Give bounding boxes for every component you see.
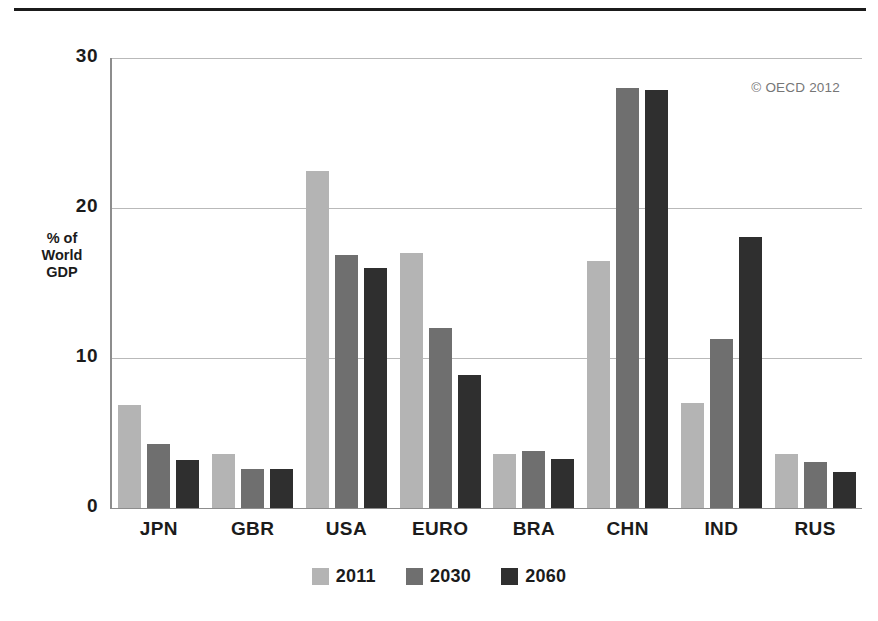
x-tick-label-rus: RUS xyxy=(768,518,862,540)
y-tick-label-0: 0 xyxy=(32,495,98,517)
legend-label-2011: 2011 xyxy=(336,566,376,587)
x-tick-label-gbr: GBR xyxy=(206,518,300,540)
bar-group-euro xyxy=(393,58,487,508)
bar-group-usa xyxy=(300,58,394,508)
bar-rus-2030[interactable] xyxy=(804,462,827,509)
bar-jpn-2011[interactable] xyxy=(118,405,141,509)
bar-group-rus xyxy=(768,58,862,508)
bar-gbr-2030[interactable] xyxy=(241,469,264,508)
bar-chn-2060[interactable] xyxy=(645,90,668,509)
bar-gbr-2060[interactable] xyxy=(270,469,293,508)
x-tick-label-euro: EURO xyxy=(393,518,487,540)
bar-series-layer xyxy=(112,58,862,508)
legend-label-2030: 2030 xyxy=(430,566,471,587)
bar-gbr-2011[interactable] xyxy=(212,454,235,508)
bar-usa-2060[interactable] xyxy=(364,268,387,508)
bar-euro-2030[interactable] xyxy=(429,328,452,508)
chart-figure: © OECD 2012 % of World GDP 0102030 JPNGB… xyxy=(0,0,878,621)
legend-item-2030[interactable]: 2030 xyxy=(406,566,471,587)
x-tick-label-usa: USA xyxy=(300,518,394,540)
x-tick-label-ind: IND xyxy=(675,518,769,540)
bar-euro-2011[interactable] xyxy=(400,253,423,508)
bar-ind-2030[interactable] xyxy=(710,339,733,509)
legend-swatch-2060 xyxy=(501,568,518,585)
y-tick-label-20: 20 xyxy=(32,195,98,217)
y-tick-label-30: 30 xyxy=(32,45,98,67)
top-divider-rule xyxy=(14,8,866,11)
legend-item-2011[interactable]: 2011 xyxy=(312,566,376,587)
legend-item-2060[interactable]: 2060 xyxy=(501,566,566,587)
x-axis-tick-labels: JPNGBRUSAEUROBRACHNINDRUS xyxy=(112,518,862,540)
legend-label-2060: 2060 xyxy=(525,566,566,587)
bar-rus-2060[interactable] xyxy=(833,472,856,508)
bar-group-chn xyxy=(581,58,675,508)
chart-legend: 201120302060 xyxy=(0,566,878,587)
x-tick-label-bra: BRA xyxy=(487,518,581,540)
bar-group-jpn xyxy=(112,58,206,508)
bar-usa-2011[interactable] xyxy=(306,171,329,509)
gridline-0 xyxy=(110,508,862,509)
x-tick-label-jpn: JPN xyxy=(112,518,206,540)
x-tick-label-chn: CHN xyxy=(581,518,675,540)
y-tick-label-10: 10 xyxy=(32,345,98,367)
bar-chn-2011[interactable] xyxy=(587,261,610,509)
bar-usa-2030[interactable] xyxy=(335,255,358,509)
bar-jpn-2030[interactable] xyxy=(147,444,170,509)
bar-bra-2030[interactable] xyxy=(522,451,545,508)
legend-swatch-2030 xyxy=(406,568,423,585)
bar-group-ind xyxy=(675,58,769,508)
y-axis-tick-labels: 0102030 xyxy=(26,58,98,508)
legend-swatch-2011 xyxy=(312,568,329,585)
bar-jpn-2060[interactable] xyxy=(176,460,199,508)
bar-group-bra xyxy=(487,58,581,508)
bar-bra-2060[interactable] xyxy=(551,459,574,509)
bar-bra-2011[interactable] xyxy=(493,454,516,508)
bar-euro-2060[interactable] xyxy=(458,375,481,509)
bar-chn-2030[interactable] xyxy=(616,88,639,508)
bar-group-gbr xyxy=(206,58,300,508)
bar-ind-2011[interactable] xyxy=(681,403,704,508)
bar-rus-2011[interactable] xyxy=(775,454,798,508)
bar-ind-2060[interactable] xyxy=(739,237,762,509)
